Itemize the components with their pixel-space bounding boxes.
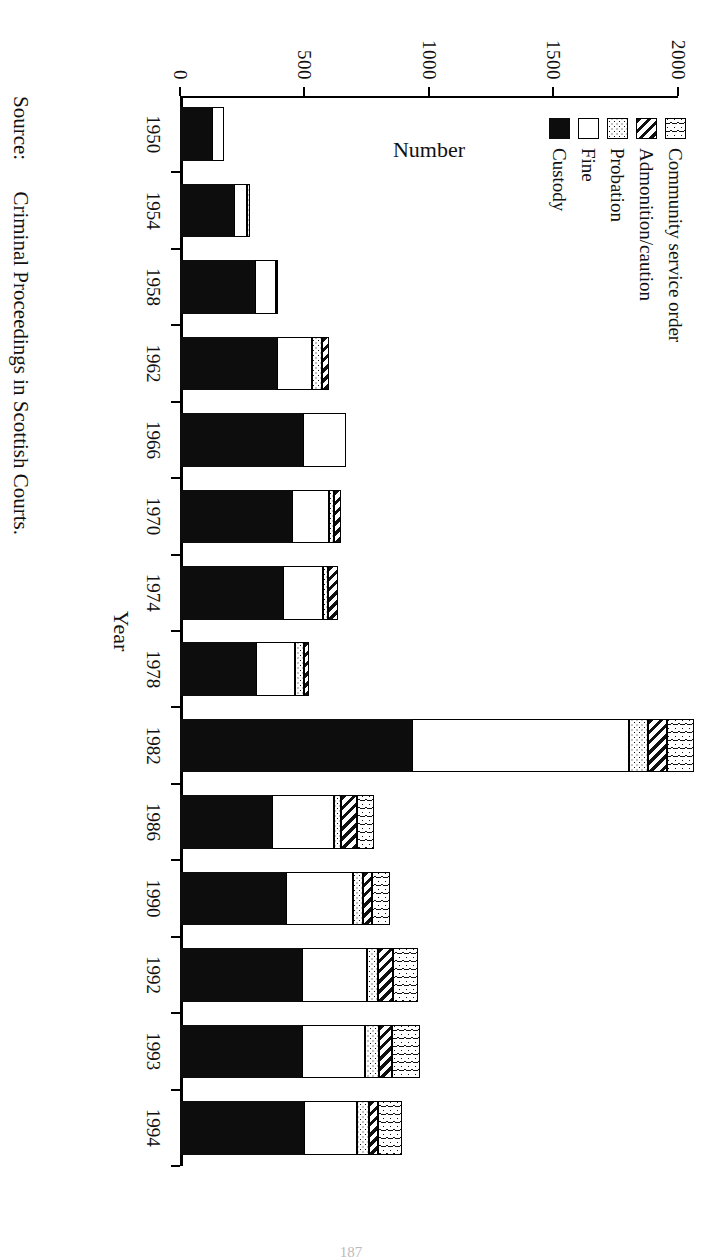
x-tick — [171, 783, 180, 785]
x-tick-label-1954: 1954 — [142, 192, 164, 230]
bar-1974 — [180, 566, 678, 620]
x-tick-label-1950: 1950 — [142, 115, 164, 153]
bar-1994 — [180, 1101, 678, 1155]
x-tick — [171, 936, 180, 938]
x-axis-line — [180, 96, 183, 1166]
x-tick — [171, 630, 180, 632]
figure-canvas: Community service orderAdmonition/cautio… — [0, 0, 702, 1259]
bar-segment-fine — [212, 107, 223, 161]
bar-segment-custody — [180, 719, 412, 773]
bar-1966 — [180, 413, 678, 467]
bar-segment-admonition — [648, 719, 667, 773]
x-tick — [171, 1165, 180, 1167]
x-tick — [171, 248, 180, 250]
bar-segment-fine — [292, 490, 329, 544]
bar-segment-custody — [180, 872, 286, 926]
bar-segment-probation — [295, 642, 305, 696]
x-tick — [171, 401, 180, 403]
y-tick — [428, 87, 430, 96]
rotated-figure: Community service orderAdmonition/cautio… — [0, 0, 702, 1259]
bar-segment-admonition — [378, 948, 393, 1002]
y-axis-title: Number — [393, 137, 465, 163]
y-tick-label: 2000 — [667, 40, 689, 80]
bar-segment-custody — [180, 642, 256, 696]
x-tick-label-1982: 1982 — [142, 727, 164, 765]
bar-segment-custody — [180, 337, 277, 391]
x-tick-label-1970: 1970 — [142, 497, 164, 535]
page-number: 187 — [340, 1244, 363, 1259]
bar-segment-cso — [667, 719, 694, 773]
bar-segment-fine — [277, 337, 312, 391]
bar-segment-custody — [180, 566, 283, 620]
bar-segment-custody — [180, 1101, 305, 1155]
x-tick-label-1978: 1978 — [142, 650, 164, 688]
x-tick-label-1990: 1990 — [142, 880, 164, 918]
bar-1990 — [180, 872, 678, 926]
x-tick-label-1966: 1966 — [142, 421, 164, 459]
bar-segment-probation — [367, 948, 378, 1002]
bar-segment-admonition — [369, 1101, 378, 1155]
y-tick-label: 0 — [169, 70, 191, 80]
bar-1954 — [180, 184, 678, 238]
source-text: Criminal Proceedings in Scottish Courts. — [9, 191, 33, 535]
bar-segment-fine — [256, 642, 295, 696]
bar-segment-fine — [283, 566, 323, 620]
bar-1962 — [180, 337, 678, 391]
bar-segment-cso — [378, 1101, 402, 1155]
bar-segment-custody — [180, 184, 234, 238]
x-tick — [171, 324, 180, 326]
bar-segment-fine — [234, 184, 248, 238]
bar-segment-custody — [180, 490, 292, 544]
bar-segment-fine — [302, 1025, 365, 1079]
bar-segment-custody — [180, 260, 255, 314]
x-tick-label-1993: 1993 — [142, 1032, 164, 1070]
bar-segment-cso — [372, 872, 391, 926]
x-tick-label-1974: 1974 — [142, 574, 164, 612]
bar-1992 — [180, 948, 678, 1002]
bar-segment-probation — [353, 872, 363, 926]
bar-segment-probation — [276, 260, 278, 314]
y-tick — [677, 87, 679, 96]
bar-segment-probation — [629, 719, 648, 773]
x-tick-label-1962: 1962 — [142, 345, 164, 383]
x-tick — [171, 477, 180, 479]
y-axis-line — [180, 96, 678, 98]
x-tick-label-1958: 1958 — [142, 268, 164, 306]
y-tick — [553, 87, 555, 96]
bar-1986 — [180, 795, 678, 849]
bar-segment-fine — [412, 719, 630, 773]
plot-area: 0500100015002000 19501954195819621966197… — [180, 96, 678, 1166]
x-tick — [171, 1089, 180, 1091]
bar-segment-admonition — [322, 337, 329, 391]
bar-segment-fine — [272, 795, 334, 849]
bar-segment-admonition — [305, 642, 310, 696]
bar-1958 — [180, 260, 678, 314]
x-tick-label-1992: 1992 — [142, 956, 164, 994]
bar-segment-custody — [180, 795, 272, 849]
y-tick — [304, 87, 306, 96]
bar-segment-fine — [303, 413, 345, 467]
bar-segment-fine — [302, 948, 367, 1002]
x-axis-title: Year — [108, 611, 134, 652]
bar-1978 — [180, 642, 678, 696]
bar-segment-probation — [357, 1101, 369, 1155]
bar-segment-admonition — [328, 566, 338, 620]
bar-segment-custody — [180, 413, 303, 467]
bar-segment-admonition — [379, 1025, 391, 1079]
x-tick — [171, 859, 180, 861]
bar-1982 — [180, 719, 678, 773]
bar-segment-custody — [180, 107, 212, 161]
source-note: Source: Criminal Proceedings in Scottish… — [8, 96, 33, 535]
source-label: Source: — [9, 96, 33, 160]
bar-segment-fine — [286, 872, 353, 926]
x-tick-label-1994: 1994 — [142, 1109, 164, 1147]
bar-segment-admonition — [363, 872, 372, 926]
x-tick — [171, 171, 180, 173]
x-tick-label-1986: 1986 — [142, 803, 164, 841]
bar-segment-fine — [255, 260, 276, 314]
bar-1993 — [180, 1025, 678, 1079]
y-tick-label: 500 — [294, 50, 316, 80]
y-tick — [179, 87, 181, 96]
y-tick-label: 1500 — [543, 40, 565, 80]
x-tick — [171, 1012, 180, 1014]
